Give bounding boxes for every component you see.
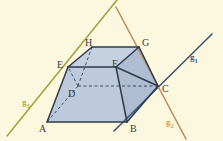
vertex-label-c: C xyxy=(162,84,169,94)
vertex-label-g: G xyxy=(142,38,149,48)
line-label-subscript-g1: 1 xyxy=(195,57,198,64)
vertex-label-a: A xyxy=(39,124,46,134)
line-label-subscript-g3: 3 xyxy=(27,102,30,109)
vertex-label-e: E xyxy=(57,60,63,70)
line-label-g3: g3 xyxy=(22,98,30,109)
line-label-subscript-g2: 2 xyxy=(171,122,174,129)
line-label-g2: g2 xyxy=(166,118,174,129)
vertex-label-b: B xyxy=(130,124,137,134)
vertex-label-f: F xyxy=(112,59,118,69)
geometry-figure: ABCDEFGHg1g2g3 xyxy=(0,0,223,141)
vertex-label-h: H xyxy=(85,38,92,48)
figure-canvas xyxy=(0,0,223,141)
vertex-label-d: D xyxy=(68,89,75,99)
line-label-g1: g1 xyxy=(190,53,198,64)
